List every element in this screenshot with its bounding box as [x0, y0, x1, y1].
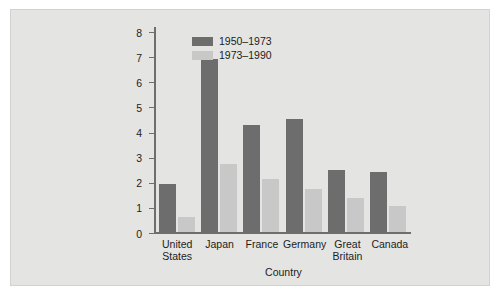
- x-axis-tick-label: France: [241, 238, 283, 262]
- y-axis-tick: 1: [149, 208, 156, 209]
- y-axis-tick: 2: [149, 183, 156, 184]
- bar-series-1: [220, 164, 237, 232]
- y-axis-tick-label: 6: [136, 78, 142, 89]
- bar-series-0: [370, 172, 387, 232]
- y-axis-tick: 3: [149, 158, 156, 159]
- legend-swatch-icon-series-0: [192, 37, 213, 46]
- bar-series-1: [347, 198, 364, 232]
- bar-series-0: [201, 59, 218, 232]
- y-axis-tick-label: 5: [136, 103, 142, 114]
- bar-group: [198, 33, 240, 232]
- x-axis-tick-label-line: Japan: [198, 238, 240, 250]
- y-axis-tick: 5: [149, 107, 156, 108]
- chart-legend: 1950–1973 1973–1990: [192, 34, 272, 62]
- x-axis-title: Country: [156, 266, 411, 278]
- y-axis-tick-label: 0: [136, 228, 142, 239]
- x-axis-tick-labels: UnitedStatesJapanFranceGermanyGreatBrita…: [156, 238, 411, 262]
- y-axis-tick-label: 8: [136, 27, 142, 38]
- bar-series-0: [159, 184, 176, 232]
- y-axis-tick: 0: [149, 233, 156, 234]
- bar-group: [367, 33, 409, 232]
- legend-item-series-0: 1950–1973: [192, 34, 272, 48]
- bar-series-1: [178, 217, 195, 232]
- legend-swatch-icon-series-1: [192, 51, 213, 60]
- x-axis-tick-label-line: France: [241, 238, 283, 250]
- y-axis-tick-label: 4: [136, 128, 142, 139]
- y-axis-tick: 6: [149, 82, 156, 83]
- bar-group: [283, 33, 325, 232]
- legend-item-series-1: 1973–1990: [192, 48, 272, 62]
- y-axis-tick-label: 2: [136, 178, 142, 189]
- x-axis-tick-label-line: Canada: [369, 238, 411, 250]
- x-axis-tick-label: Germany: [283, 238, 326, 262]
- bar-series-0: [328, 170, 345, 232]
- x-axis-tick-label-line: Germany: [283, 238, 326, 250]
- y-axis-tick: 4: [149, 133, 156, 134]
- bar-series-1: [262, 179, 279, 232]
- bar-series-1: [305, 189, 322, 232]
- y-axis-tick-label: 7: [136, 52, 142, 63]
- y-axis-tick-label: 3: [136, 153, 142, 164]
- bar-series-0: [286, 119, 303, 232]
- bar-group: [156, 33, 198, 232]
- bar-series-1: [389, 206, 406, 232]
- x-axis-tick-label: GreatBritain: [326, 238, 368, 262]
- x-axis-line: [154, 232, 411, 234]
- x-axis-tick-label-line: States: [156, 250, 198, 262]
- plot-area: 012345678: [154, 33, 409, 234]
- x-axis-tick-label: Japan: [198, 238, 240, 262]
- chart-figure: Average Annual Growth Rate, Real GDP per…: [10, 9, 490, 286]
- bar-group: [325, 33, 367, 232]
- x-axis-tick-label-line: Britain: [326, 250, 368, 262]
- bar-series-0: [243, 125, 260, 232]
- bar-group: [240, 33, 282, 232]
- y-axis-tick-label: 1: [136, 203, 142, 214]
- x-axis-tick-label: Canada: [369, 238, 411, 262]
- x-axis-tick-label-line: United: [156, 238, 198, 250]
- y-axis-tick: 8: [149, 32, 156, 33]
- y-axis-tick: 7: [149, 57, 156, 58]
- bar-groups: [156, 33, 409, 232]
- legend-label-series-0: 1950–1973: [219, 35, 272, 47]
- x-axis-tick-label: UnitedStates: [156, 238, 198, 262]
- legend-label-series-1: 1973–1990: [219, 49, 272, 61]
- x-axis-tick-label-line: Great: [326, 238, 368, 250]
